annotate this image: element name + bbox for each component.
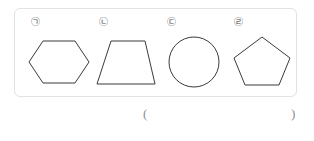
figure-label-circled-nieun: ㉡: [99, 17, 108, 27]
answer-blank[interactable]: ( ): [14, 103, 297, 133]
trapezoid-shape: [91, 31, 163, 93]
figure-label-circled-digeut: ㉢: [167, 17, 176, 27]
figure-item-pentagon[interactable]: ㉣: [226, 9, 298, 98]
figure-item-hexagon[interactable]: ㉠: [23, 9, 95, 98]
figure-item-trapezoid[interactable]: ㉡: [91, 9, 163, 98]
answer-open-paren: (: [143, 103, 147, 125]
answer-close-paren: ): [291, 103, 295, 125]
trapezoid-icon: [91, 31, 163, 93]
figure-label-circled-giyeok: ㉠: [31, 17, 40, 27]
pentagon-icon: [226, 31, 298, 93]
figure-item-circle[interactable]: ㉢: [159, 9, 231, 98]
circle-icon: [159, 31, 231, 93]
hexagon-icon: [23, 31, 95, 93]
hexagon-shape: [23, 31, 95, 93]
figure-panel: ㉠ ㉡ ㉢ ㉣: [14, 8, 297, 97]
circle-shape: [159, 31, 231, 93]
figure-label-circled-rieul: ㉣: [234, 17, 243, 27]
pentagon-shape: [226, 31, 298, 93]
